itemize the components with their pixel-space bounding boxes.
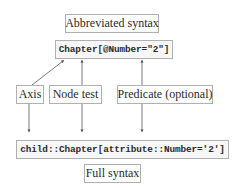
abbreviated-syntax-label: Abbreviated syntax xyxy=(65,14,159,33)
full-syntax-label: Full syntax xyxy=(84,164,141,183)
axis-box: Axis xyxy=(16,85,44,104)
abbreviated-expression: Chapter[@Number="2"] xyxy=(55,40,173,59)
predicate-box: Predicate (optional) xyxy=(117,85,213,104)
node-test-box: Node test xyxy=(49,85,102,104)
axis-up-arrow xyxy=(32,61,63,85)
full-expression: child::Chapter[attribute::Number='2'] xyxy=(16,140,229,159)
